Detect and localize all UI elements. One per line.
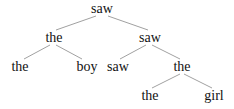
tree-node: the: [141, 88, 158, 104]
tree-node-root: saw: [91, 1, 113, 17]
edge: [120, 45, 146, 59]
tree-node: girl: [204, 88, 223, 104]
edge: [108, 16, 148, 30]
tree-node: saw: [139, 30, 161, 46]
edge: [184, 74, 212, 88]
tree-node: the: [11, 59, 28, 75]
tree-node: boy: [77, 59, 98, 75]
edge: [56, 16, 96, 30]
edge: [152, 74, 180, 88]
edge: [56, 45, 82, 59]
tree-edges: [0, 0, 234, 109]
dependency-tree-diagram: saw the saw the boy saw the the girl: [0, 0, 234, 109]
tree-node: saw: [107, 59, 129, 75]
tree-node: the: [173, 59, 190, 75]
edge: [24, 45, 50, 59]
tree-node: the: [45, 30, 62, 46]
edge: [152, 45, 180, 59]
